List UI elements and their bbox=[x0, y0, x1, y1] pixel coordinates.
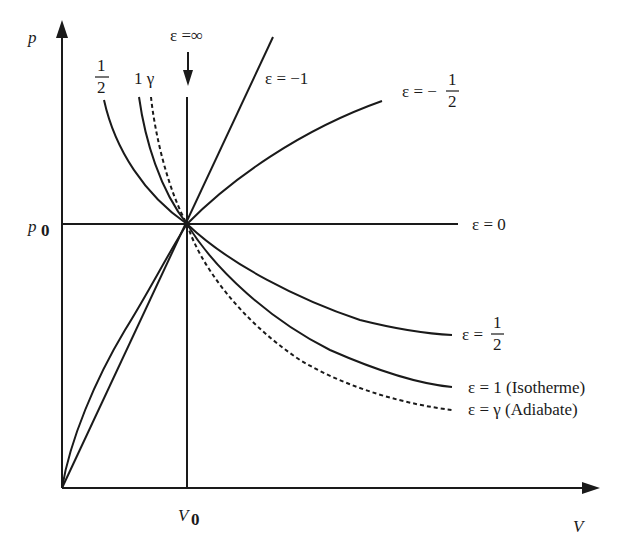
eps-infinity-arrow-icon bbox=[183, 52, 193, 86]
svg-text:1: 1 bbox=[493, 313, 502, 332]
svg-text:0: 0 bbox=[191, 510, 200, 529]
svg-text:p: p bbox=[27, 28, 37, 47]
svg-text:2: 2 bbox=[97, 78, 106, 97]
x-axis-arrow-icon bbox=[582, 482, 600, 494]
svg-text:2: 2 bbox=[448, 92, 457, 111]
svg-text:1: 1 bbox=[448, 70, 457, 89]
label-eps-minus-half: ε = − 1 2 bbox=[402, 70, 459, 111]
label-1-gamma-top: 1 γ bbox=[134, 69, 155, 88]
y-axis-label: p bbox=[27, 28, 37, 47]
label-eps-half: ε = 1 2 bbox=[462, 313, 504, 354]
svg-text:1: 1 bbox=[97, 56, 106, 75]
p0-label: p 0 bbox=[27, 217, 50, 240]
label-eps-minus-1: ε = −1 bbox=[265, 69, 308, 88]
label-eps-gamma-adiabate: ε = γ (Adiabate) bbox=[468, 400, 578, 419]
label-half-top: 1 2 bbox=[95, 56, 109, 97]
label-eps-infinity: ε =∞ bbox=[170, 26, 203, 45]
curve-eps-minus-1 bbox=[62, 37, 273, 488]
x-axis-label: V bbox=[573, 517, 586, 536]
svg-text:V: V bbox=[573, 517, 586, 536]
svg-text:2: 2 bbox=[493, 335, 502, 354]
pv-diagram: p p 0 V 0 V ε =∞ 1 2 1 γ ε = −1 ε = − 1 … bbox=[0, 0, 636, 549]
curve-eps-minus-half bbox=[62, 101, 382, 488]
label-eps-1-isotherme: ε = 1 (Isotherme) bbox=[468, 378, 585, 397]
x-axis bbox=[62, 482, 600, 494]
svg-text:0: 0 bbox=[41, 221, 50, 240]
y-axis-arrow-icon bbox=[56, 20, 68, 38]
v0-label: V 0 bbox=[178, 506, 200, 529]
svg-text:ε =: ε = bbox=[462, 325, 483, 344]
curve-eps-gamma bbox=[151, 97, 452, 410]
svg-text:V: V bbox=[178, 506, 191, 525]
svg-text:p: p bbox=[27, 217, 37, 236]
y-axis bbox=[56, 20, 68, 488]
label-eps-0: ε = 0 bbox=[472, 215, 506, 234]
svg-text:ε = −: ε = − bbox=[402, 82, 437, 101]
